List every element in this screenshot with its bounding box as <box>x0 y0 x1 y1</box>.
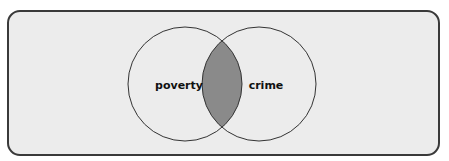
label-crime: crime <box>249 79 284 92</box>
label-poverty: poverty <box>155 79 203 92</box>
venn-diagram: poverty crime <box>0 0 449 161</box>
